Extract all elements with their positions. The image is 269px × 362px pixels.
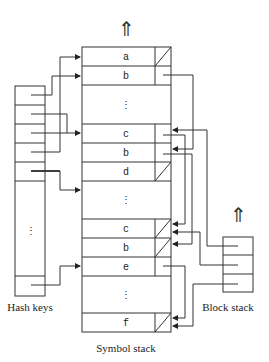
- symbol-entry-b: b: [123, 148, 129, 159]
- symbol-ellipsis: ⋮: [121, 290, 131, 301]
- symbol-entry-b: b: [123, 71, 129, 82]
- symbol-entry-b: b: [123, 243, 129, 254]
- symbol-table-diagram: ⇑ ⇑ a b ⋮ c b d ⋮ c b e ⋮ f: [0, 0, 269, 362]
- block-stack-growth-arrow: ⇑: [230, 204, 247, 226]
- symbol-ellipsis: ⋮: [121, 100, 131, 111]
- symbol-entry-c: c: [123, 129, 129, 140]
- symbol-entry-f: f: [123, 318, 129, 329]
- block-stack-label: Block stack: [202, 301, 254, 313]
- block-pointers: [173, 130, 238, 326]
- hash-keys-table: [15, 86, 45, 296]
- symbol-stack-growth-arrow: ⇑: [118, 18, 135, 40]
- symbol-entry-e: e: [123, 262, 129, 273]
- hash-pointers: [31, 57, 80, 285]
- symbol-entry-c: c: [123, 224, 129, 235]
- symbol-ellipsis: ⋮: [121, 195, 131, 206]
- hash-keys-ellipsis: ⋮: [26, 226, 36, 237]
- symbol-entry-d: d: [123, 167, 129, 178]
- chain-pointers: [163, 75, 193, 318]
- symbol-entry-a: a: [123, 52, 129, 63]
- hash-keys-label: Hash keys: [7, 301, 53, 313]
- symbol-stack-label: Symbol stack: [96, 342, 156, 354]
